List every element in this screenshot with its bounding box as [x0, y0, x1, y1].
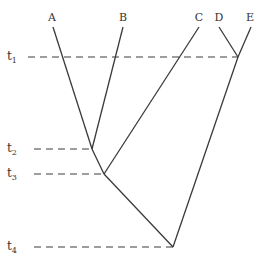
branch-t3-to-root: [104, 174, 173, 247]
time-label-t1: t1: [7, 49, 17, 65]
taxon-label-b: B: [119, 11, 127, 24]
taxon-label-d: D: [215, 11, 224, 24]
branch-ab-to-t3: [92, 149, 104, 174]
branch-a: [53, 27, 92, 149]
time-label-t2: t2: [7, 141, 17, 157]
taxon-label-a: A: [47, 11, 57, 24]
branch-e: [238, 27, 251, 57]
time-label-t4: t4: [7, 239, 17, 255]
branch-t1-to-root: [173, 57, 238, 247]
branch-c: [104, 27, 199, 174]
branch-b: [92, 27, 123, 149]
branch-d: [219, 27, 238, 57]
taxon-label-c: C: [195, 11, 203, 24]
time-label-t3: t3: [7, 166, 17, 182]
taxon-label-e: E: [246, 11, 254, 24]
phylogenetic-tree: A B C D E t1 t2 t3 t4: [0, 0, 258, 258]
